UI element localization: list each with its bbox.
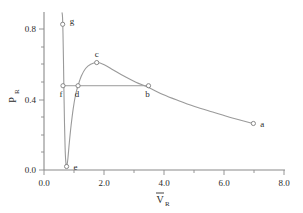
y-tick-label-1: 0.4 bbox=[25, 95, 37, 105]
x-axis-title-sub: R bbox=[165, 200, 170, 208]
y-tick-label-2: 0.8 bbox=[25, 24, 37, 34]
data-point-d bbox=[76, 84, 80, 88]
y-tick-label-0: 0.0 bbox=[25, 165, 37, 175]
data-layer: abcdefg bbox=[59, 13, 264, 173]
data-point-label-a: a bbox=[260, 119, 264, 129]
x-axis-title: V R bbox=[156, 193, 170, 208]
y-axis-title: P R bbox=[7, 89, 21, 103]
data-point-c bbox=[95, 60, 99, 64]
x-tick-label-0: 0.0 bbox=[38, 178, 50, 188]
x-tick-label-3: 6.0 bbox=[218, 178, 230, 188]
data-point-e bbox=[64, 164, 68, 168]
x-tick-label-2: 4.0 bbox=[158, 178, 170, 188]
y-axis-title-main: P bbox=[7, 97, 18, 103]
x-axis-title-main: V bbox=[156, 194, 164, 205]
data-point-label-d: d bbox=[75, 89, 80, 99]
data-point-label-f: f bbox=[59, 89, 62, 99]
data-point-a bbox=[251, 121, 255, 125]
data-point-label-b: b bbox=[145, 89, 150, 99]
y-axis-title-sub: R bbox=[13, 89, 21, 94]
isotherm-plot: 0.0 0.4 0.8 0.0 2.0 4.0 6.0 8.0 P R V R … bbox=[0, 0, 303, 213]
data-point-label-c: c bbox=[95, 49, 99, 59]
chart-figure: 0.0 0.4 0.8 0.0 2.0 4.0 6.0 8.0 P R V R … bbox=[0, 0, 303, 213]
data-point-markers bbox=[61, 22, 256, 168]
x-tick-label-1: 2.0 bbox=[98, 178, 110, 188]
data-point-label-g: g bbox=[70, 16, 75, 26]
axes-spines bbox=[44, 12, 285, 170]
data-point-f bbox=[61, 84, 65, 88]
data-point-b bbox=[146, 84, 150, 88]
x-tick-label-4: 8.0 bbox=[278, 178, 290, 188]
data-point-label-e: e bbox=[74, 162, 78, 172]
x-axis-ticks bbox=[44, 170, 284, 175]
isotherm-curve bbox=[62, 13, 253, 167]
data-point-g bbox=[61, 22, 65, 26]
y-axis-ticks bbox=[39, 29, 44, 170]
